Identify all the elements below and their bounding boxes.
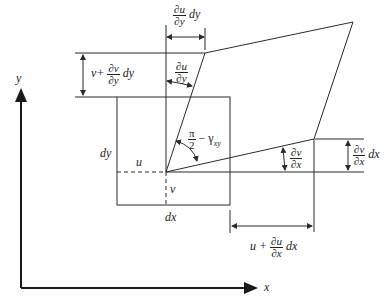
suffix: dx — [368, 147, 379, 161]
y-axis-label: y — [16, 72, 21, 84]
x-axis-label: x — [264, 281, 269, 293]
dv-dx-label: ∂v∂x — [290, 147, 302, 170]
prefix: v+ — [91, 66, 104, 80]
suffix: dx — [286, 239, 297, 253]
denominator: ∂y — [176, 73, 186, 84]
suffix: dy — [189, 7, 200, 21]
v-plus-label: v+ ∂v∂y dy — [91, 63, 134, 86]
shear-angle-label: π2 − γxy — [188, 128, 221, 151]
subscript: xy — [214, 139, 221, 148]
deformation-diagram — [0, 0, 390, 305]
v-label: v — [170, 183, 175, 195]
dv-dx-dx-label: ∂v∂x dx — [353, 144, 380, 167]
suffix: − γ — [199, 131, 214, 145]
denominator: ∂y — [174, 16, 184, 27]
prefix: u + — [250, 239, 267, 253]
denominator: ∂x — [271, 248, 281, 259]
du-dy-dy-label: ∂u∂y dy — [173, 4, 200, 27]
dv-dx-angle-arrow — [283, 148, 285, 170]
denominator: ∂x — [354, 156, 364, 167]
dx-label: dx — [165, 211, 176, 223]
denominator: ∂x — [291, 159, 301, 170]
dy-label: dy — [100, 147, 111, 159]
u-plus-label: u + ∂u∂x dx — [250, 236, 297, 259]
coordinate-axes — [21, 90, 256, 288]
denominator: 2 — [189, 140, 195, 151]
u-label: u — [136, 156, 142, 168]
suffix: dy — [123, 66, 134, 80]
du-dy-label: ∂u∂y — [175, 61, 188, 84]
denominator: ∂y — [108, 75, 118, 86]
